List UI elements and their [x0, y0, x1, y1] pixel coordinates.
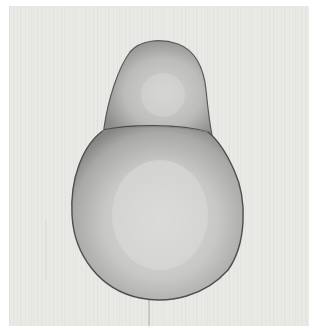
- pear-drawing: [0, 0, 321, 332]
